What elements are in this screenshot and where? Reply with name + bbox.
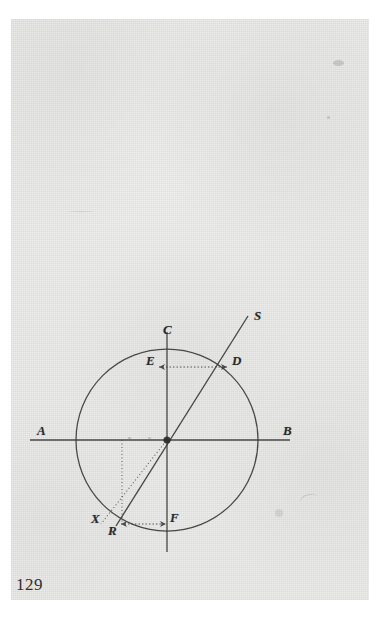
figure-label-a: A <box>37 424 46 437</box>
paper-sheet <box>11 19 369 600</box>
figure-label-c: C <box>163 323 172 336</box>
scanned-page: A B C D E F R S X 129 <box>0 0 380 619</box>
figure-label-s: S <box>254 309 261 322</box>
figure-label-r: R <box>108 524 117 537</box>
page-number: 129 <box>16 575 43 595</box>
figure-label-f: F <box>170 511 179 524</box>
figure-label-b: B <box>283 424 292 437</box>
figure-label-e: E <box>146 354 155 367</box>
figure-label-d: D <box>232 354 241 367</box>
figure-label-x: X <box>91 512 100 525</box>
